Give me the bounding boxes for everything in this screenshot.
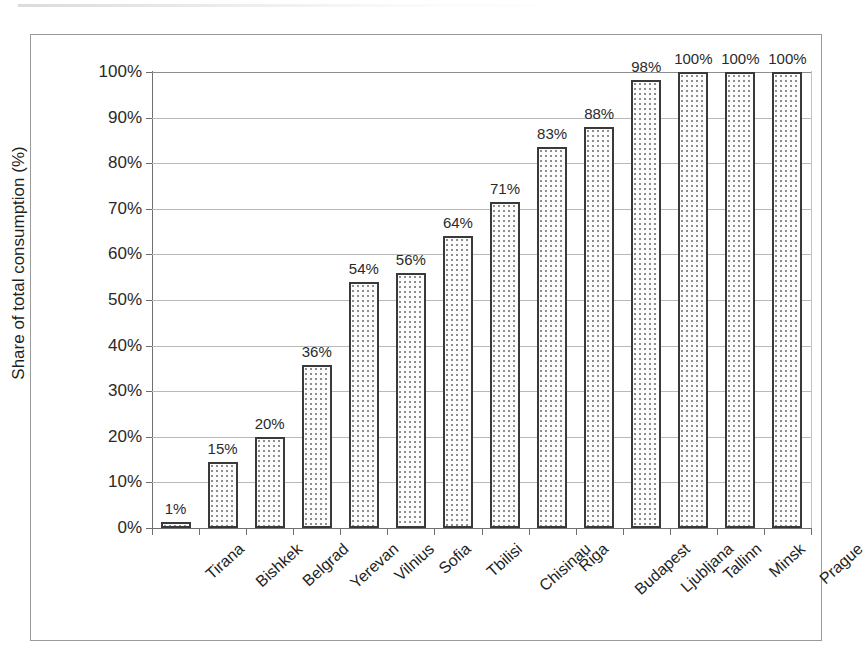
y-tick-label: 90% bbox=[56, 108, 142, 128]
bar-slot: 36% bbox=[293, 72, 340, 528]
y-tick-label: 0% bbox=[56, 518, 142, 538]
x-tick-label-bishkek: Bishkek bbox=[252, 540, 306, 591]
bar[interactable] bbox=[490, 202, 520, 528]
x-tick-mark bbox=[340, 528, 341, 535]
x-tick-label-belgrad: Belgrad bbox=[299, 540, 352, 590]
bar[interactable] bbox=[443, 236, 473, 528]
bar-slot: 54% bbox=[340, 72, 387, 528]
bar-value-label: 1% bbox=[165, 500, 187, 517]
plot-area: 1%15%20%36%54%56%64%71%83%88%98%100%100%… bbox=[152, 72, 811, 528]
x-tick-label-prague: Prague bbox=[816, 540, 866, 588]
x-tick-mark bbox=[670, 528, 671, 535]
x-tick-label-yerevan: Yerevan bbox=[347, 540, 402, 592]
y-tick-label: 100% bbox=[56, 62, 142, 82]
x-tick-mark bbox=[529, 528, 530, 535]
y-tick-label: 70% bbox=[56, 199, 142, 219]
bar[interactable] bbox=[631, 80, 661, 528]
bar-slot: 56% bbox=[387, 72, 434, 528]
x-tick-mark bbox=[199, 528, 200, 535]
x-tick-mark bbox=[623, 528, 624, 535]
y-tick-label: 10% bbox=[56, 472, 142, 492]
bar[interactable] bbox=[161, 522, 191, 528]
bar-value-label: 88% bbox=[584, 105, 614, 122]
scan-artifact-line bbox=[18, 4, 578, 7]
bar-value-label: 98% bbox=[631, 58, 661, 75]
plot-right-border bbox=[811, 71, 812, 529]
bar-value-label: 15% bbox=[208, 440, 238, 457]
bar-value-label: 83% bbox=[537, 125, 567, 142]
x-tick-label-sofia: Sofia bbox=[435, 540, 474, 578]
bar-value-label: 54% bbox=[349, 260, 379, 277]
x-tick-mark bbox=[387, 528, 388, 535]
y-tick-label: 40% bbox=[56, 336, 142, 356]
bar-slot: 20% bbox=[246, 72, 293, 528]
bar-slot: 71% bbox=[482, 72, 529, 528]
bar-slot: 64% bbox=[434, 72, 481, 528]
bar-slot: 88% bbox=[576, 72, 623, 528]
bar-slot: 83% bbox=[529, 72, 576, 528]
y-tick-label: 20% bbox=[56, 427, 142, 447]
x-tick-mark bbox=[764, 528, 765, 535]
bar-slot: 1% bbox=[152, 72, 199, 528]
bar-value-label: 71% bbox=[490, 180, 520, 197]
y-tick-label: 80% bbox=[56, 153, 142, 173]
bar[interactable] bbox=[302, 365, 332, 528]
x-tick-mark bbox=[717, 528, 718, 535]
bar-value-label: 64% bbox=[443, 214, 473, 231]
x-tick-label-tbilisi: Tbilisi bbox=[484, 540, 526, 581]
bar-value-label: 36% bbox=[302, 343, 332, 360]
x-tick-mark bbox=[434, 528, 435, 535]
x-tick-mark bbox=[576, 528, 577, 535]
x-tick-mark bbox=[482, 528, 483, 535]
x-tick-label-tirana: Tirana bbox=[202, 540, 247, 583]
x-tick-label-vilnius: Vilnius bbox=[391, 540, 438, 585]
bar-slot: 98% bbox=[623, 72, 670, 528]
bar[interactable] bbox=[725, 72, 755, 528]
bar[interactable] bbox=[208, 462, 238, 528]
bar-value-label: 100% bbox=[674, 50, 712, 67]
y-tick-label: 60% bbox=[56, 244, 142, 264]
x-tick-mark bbox=[152, 528, 153, 535]
bar[interactable] bbox=[255, 437, 285, 528]
bar[interactable] bbox=[396, 273, 426, 528]
x-tick-mark bbox=[811, 528, 812, 535]
bar-value-label: 100% bbox=[721, 50, 759, 67]
bar-slot: 15% bbox=[199, 72, 246, 528]
bar-value-label: 100% bbox=[768, 50, 806, 67]
bar-slot: 100% bbox=[717, 72, 764, 528]
x-tick-label-minsk: Minsk bbox=[766, 540, 809, 581]
x-tick-mark bbox=[293, 528, 294, 535]
bar-slot: 100% bbox=[670, 72, 717, 528]
bar[interactable] bbox=[537, 147, 567, 528]
bar[interactable] bbox=[678, 72, 708, 528]
y-tick-label: 50% bbox=[56, 290, 142, 310]
y-axis-title: Share of total consumption (%) bbox=[9, 35, 29, 491]
bar-value-label: 20% bbox=[255, 415, 285, 432]
y-tick-label: 30% bbox=[56, 381, 142, 401]
bar[interactable] bbox=[772, 72, 802, 528]
bar-value-label: 56% bbox=[396, 251, 426, 268]
x-tick-mark bbox=[246, 528, 247, 535]
bar[interactable] bbox=[349, 282, 379, 528]
bar-slot: 100% bbox=[764, 72, 811, 528]
bar[interactable] bbox=[584, 127, 614, 528]
chart-figure-frame: Share of total consumption (%) 0%10%20%3… bbox=[30, 34, 822, 641]
